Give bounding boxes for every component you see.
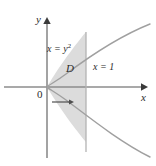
- math-figure-region-d: y x 0 x = y2 x = 1 D: [0, 0, 156, 166]
- parabola-equation-text: x = y: [47, 43, 68, 54]
- x-axis-arrowhead: [141, 83, 148, 91]
- region-label-d: D: [66, 63, 74, 74]
- origin-label: 0: [37, 89, 43, 100]
- y-axis-arrowhead: [43, 17, 50, 24]
- line-equation-label: x = 1: [93, 62, 114, 72]
- figure-canvas: [0, 0, 156, 166]
- y-axis-label: y: [36, 14, 41, 25]
- parabola-equation-label: x = y2: [47, 43, 71, 54]
- x-axis-label: x: [141, 92, 146, 103]
- parabola-equation-exponent: 2: [68, 42, 71, 49]
